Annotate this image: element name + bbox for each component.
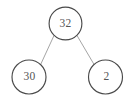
node-left-child: 30 bbox=[12, 60, 46, 94]
node-right-child: 2 bbox=[89, 60, 123, 94]
edge-root-to-right bbox=[77, 36, 94, 65]
tree-diagram: 32 30 2 bbox=[0, 0, 133, 100]
edge-root-to-left bbox=[41, 36, 54, 65]
node-root: 32 bbox=[49, 7, 82, 40]
tree-canvas: 32 30 2 bbox=[0, 0, 133, 100]
node-root-label: 32 bbox=[60, 17, 72, 29]
node-left-child-label: 30 bbox=[24, 70, 36, 82]
node-right-child-label: 2 bbox=[104, 70, 110, 82]
